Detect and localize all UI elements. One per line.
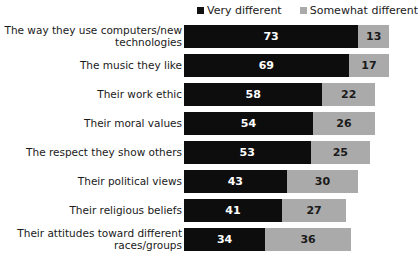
bar-segment-somewhat-different: 13 [358, 25, 389, 48]
plot-area: The way they use computers/new technolog… [0, 20, 413, 266]
stacked-bar: 4330 [184, 170, 358, 193]
bar-value-label: 17 [361, 60, 376, 71]
bar-value-label: 36 [300, 234, 315, 245]
stacked-bar: 4127 [184, 199, 346, 222]
category-label: Their attitudes toward different races/g… [2, 228, 182, 251]
bar-row: Their attitudes toward different races/g… [0, 228, 413, 251]
legend-entry-very-different: Very different [197, 5, 282, 16]
stacked-bar: 5325 [184, 141, 370, 164]
legend-label-somewhat-different: Somewhat different [310, 5, 418, 16]
bar-segment-somewhat-different: 30 [287, 170, 359, 193]
bar-segment-very-different: 58 [184, 83, 322, 106]
bar-value-label: 26 [336, 118, 351, 129]
bar-segment-very-different: 54 [184, 112, 313, 135]
stacked-bar: 5426 [184, 112, 375, 135]
bar-value-label: 58 [246, 89, 261, 100]
bar-segment-somewhat-different: 27 [282, 199, 346, 222]
bar-segment-somewhat-different: 36 [265, 228, 351, 251]
bar-row: Their political views4330 [0, 170, 413, 193]
chart-legend: Very different Somewhat different [197, 3, 418, 17]
bar-row: Their religious beliefs4127 [0, 199, 413, 222]
stacked-bar: 7313 [184, 25, 389, 48]
bar-segment-very-different: 41 [184, 199, 282, 222]
category-label: The music they like [2, 60, 182, 72]
bar-value-label: 27 [306, 205, 321, 216]
bar-value-label: 30 [315, 176, 330, 187]
bar-segment-very-different: 69 [184, 54, 349, 77]
bar-row: Their moral values5426 [0, 112, 413, 135]
bar-segment-very-different: 34 [184, 228, 265, 251]
bar-value-label: 22 [341, 89, 356, 100]
stacked-bar: 3436 [184, 228, 351, 251]
bar-segment-very-different: 53 [184, 141, 311, 164]
legend-label-very-different: Very different [207, 5, 282, 16]
stacked-bar: 5822 [184, 83, 375, 106]
bar-value-label: 53 [240, 147, 255, 158]
bar-value-label: 43 [228, 176, 243, 187]
category-label: Their moral values [2, 118, 182, 130]
bar-value-label: 25 [333, 147, 348, 158]
category-label: Their religious beliefs [2, 205, 182, 217]
category-label: Their work ethic [2, 89, 182, 101]
bar-value-label: 54 [241, 118, 256, 129]
bar-segment-somewhat-different: 26 [313, 112, 375, 135]
category-label: The respect they show others [2, 147, 182, 159]
bar-segment-somewhat-different: 25 [311, 141, 371, 164]
bar-segment-somewhat-different: 22 [322, 83, 375, 106]
bar-segment-very-different: 73 [184, 25, 358, 48]
bar-row: The music they like6917 [0, 54, 413, 77]
bar-row: The respect they show others5325 [0, 141, 413, 164]
legend-entry-somewhat-different: Somewhat different [300, 5, 418, 16]
stacked-bar: 6917 [184, 54, 389, 77]
bar-value-label: 13 [366, 31, 381, 42]
bar-value-label: 34 [217, 234, 232, 245]
bar-value-label: 69 [259, 60, 274, 71]
bar-segment-very-different: 43 [184, 170, 287, 193]
bar-value-label: 73 [263, 31, 278, 42]
legend-swatch-icon-somewhat-different [300, 7, 307, 14]
bar-segment-somewhat-different: 17 [349, 54, 390, 77]
category-label: The way they use computers/new technolog… [2, 25, 182, 48]
category-label: Their political views [2, 176, 182, 188]
bar-value-label: 41 [225, 205, 240, 216]
bar-row: The way they use computers/new technolog… [0, 25, 413, 48]
legend-swatch-icon-very-different [197, 7, 204, 14]
bar-row: Their work ethic5822 [0, 83, 413, 106]
